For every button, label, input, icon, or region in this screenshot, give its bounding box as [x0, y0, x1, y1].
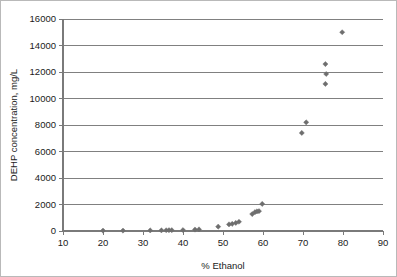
y-tick-label: 6000	[35, 146, 56, 157]
data-point-marker	[148, 228, 153, 233]
y-tick-label: 4000	[35, 172, 56, 183]
data-point-marker	[299, 130, 304, 135]
x-tick-label: 70	[298, 237, 309, 248]
y-axis-title: DEHP concentration, mg/L	[8, 69, 19, 181]
data-point-marker	[159, 228, 164, 233]
x-axis-title: % Ethanol	[201, 260, 244, 271]
x-tick-label: 40	[178, 237, 189, 248]
x-tick-label: 80	[338, 237, 349, 248]
y-tick-label: 14000	[30, 40, 56, 51]
x-tick-label: 50	[218, 237, 229, 248]
x-tick-label: 60	[258, 237, 269, 248]
y-tick-label: 10000	[30, 93, 56, 104]
y-tick-label: 16000	[30, 13, 56, 24]
data-point-marker	[323, 81, 328, 86]
data-point-marker	[120, 228, 125, 233]
data-point-marker	[180, 227, 185, 232]
data-point-marker	[323, 61, 328, 66]
x-tick-label: 30	[138, 237, 149, 248]
chart-figure: 0200040006000800010000120001400016000102…	[0, 0, 397, 277]
data-point-marker	[100, 228, 105, 233]
data-point-marker	[304, 120, 309, 125]
x-tick-label: 90	[378, 237, 389, 248]
data-point-marker	[216, 224, 221, 229]
x-tick-label: 10	[58, 237, 69, 248]
y-tick-label: 12000	[30, 66, 56, 77]
data-point-marker	[340, 30, 345, 35]
x-tick-label: 20	[98, 237, 109, 248]
scatter-plot: 0200040006000800010000120001400016000102…	[1, 1, 397, 277]
y-tick-label: 2000	[35, 199, 56, 210]
y-tick-label: 0	[51, 225, 56, 236]
y-tick-label: 8000	[35, 119, 56, 130]
data-point-marker	[260, 201, 265, 206]
